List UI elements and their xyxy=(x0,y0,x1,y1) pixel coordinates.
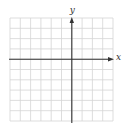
y-axis-label: y xyxy=(70,6,75,15)
x-axis-label: x xyxy=(116,53,121,62)
grid-lines xyxy=(10,18,113,121)
coordinate-plane xyxy=(0,0,131,129)
